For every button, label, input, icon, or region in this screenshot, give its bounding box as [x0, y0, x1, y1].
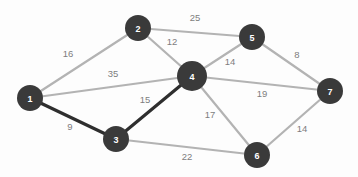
- edge-weight-1-4: 35: [108, 68, 119, 79]
- graph-node-7: 7: [317, 78, 343, 104]
- nodes-layer: 1234567: [17, 15, 343, 168]
- edge-weight-5-7: 8: [294, 49, 299, 60]
- edge-weight-3-6: 22: [182, 151, 193, 162]
- edge-weight-4-5: 14: [225, 56, 236, 67]
- node-label-1: 1: [27, 94, 32, 104]
- edges-layer: [30, 28, 330, 155]
- node-label-6: 6: [254, 151, 259, 161]
- node-label-3: 3: [113, 135, 118, 145]
- graph-node-6: 6: [244, 142, 270, 168]
- edge-weight-6-7: 14: [297, 123, 308, 134]
- graph-node-2: 2: [125, 15, 151, 41]
- graph-edge-1-3: [30, 98, 116, 139]
- graph-node-4: 4: [177, 61, 207, 91]
- edge-weight-2-5: 25: [190, 12, 201, 23]
- graph-edge-2-5: [138, 28, 252, 37]
- graph-diagram: 1635925121522141917814 1234567: [0, 0, 358, 177]
- graph-node-3: 3: [103, 126, 129, 152]
- node-label-5: 5: [249, 33, 254, 43]
- edge-weight-2-4: 12: [167, 36, 178, 47]
- node-label-4: 4: [189, 72, 194, 82]
- node-label-7: 7: [327, 87, 332, 97]
- graph-node-5: 5: [239, 24, 265, 50]
- graph-edge-4-6: [192, 76, 257, 155]
- graph-svg: 1635925121522141917814 1234567: [0, 0, 358, 177]
- edge-weight-4-6: 17: [205, 109, 216, 120]
- edge-weight-3-4: 15: [140, 94, 151, 105]
- node-label-2: 2: [135, 24, 140, 34]
- edge-weight-4-7: 19: [257, 88, 268, 99]
- graph-edge-1-2: [30, 28, 138, 98]
- graph-node-1: 1: [17, 85, 43, 111]
- edge-weight-1-2: 16: [63, 48, 74, 59]
- edge-weight-1-3: 9: [67, 121, 72, 132]
- graph-edge-6-7: [257, 91, 330, 155]
